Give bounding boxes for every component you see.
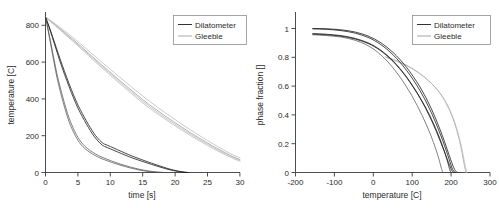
panel-cooling-curves: 0 200 400 600 800 0 5 10 15 20 25 30 [0,0,249,208]
right-ytick-1: 1 [285,25,290,34]
left-ytick-0: 0 [35,169,40,178]
dilatometer-phase-curve-1 [313,29,458,173]
right-y-ticks [292,29,296,173]
cooling-curves-plot: 0 200 400 600 800 0 5 10 15 20 25 30 [0,0,249,208]
right-ytick-0: 0 [285,169,290,178]
right-ytick-04: 0.4 [278,111,290,120]
right-ytick-06: 0.6 [278,82,290,91]
dilatometer-phase-curve-4 [313,34,451,173]
right-x-ticks [296,173,491,177]
left-legend[interactable]: Dilatometer Gleeble [174,16,247,45]
left-y-ticks [42,25,46,172]
left-ytick-400: 400 [26,95,40,104]
left-ytick-800: 800 [26,21,40,30]
dilatometer-phase-curve-2 [313,29,456,173]
dilatometer-fast-curve-1 [46,17,163,172]
right-xtick-m200: -200 [287,178,304,187]
gleeble-phase-curve-2 [387,58,467,172]
left-xtick-20: 20 [171,178,180,187]
right-xtick-300: 300 [483,178,497,187]
left-xtick-30: 30 [235,178,244,187]
right-x-axis-title: temperature [C] [362,190,421,200]
right-y-axis-title: phase fraction [] [255,65,265,125]
left-ytick-600: 600 [26,58,40,67]
dilatometer-curve-1 [46,17,187,172]
right-ytick-02: 0.2 [278,140,290,149]
right-xtick-m100: -100 [326,178,343,187]
left-y-axis-title: temperature [C] [6,65,16,124]
right-curves-group [313,29,467,173]
figure-container: 0 200 400 600 800 0 5 10 15 20 25 30 [0,0,499,208]
left-xtick-10: 10 [106,178,115,187]
right-xtick-0: 0 [371,178,376,187]
dilatometer-fast-curve-2 [46,17,169,172]
left-x-ticks [46,173,240,177]
gleeble-phase-curve-1 [385,57,466,173]
left-xtick-0: 0 [43,178,48,187]
left-xtick-5: 5 [76,178,81,187]
left-legend-label-dilatometer: Dilatometer [195,21,236,30]
right-ytick-08: 0.8 [278,53,290,62]
right-xtick-200: 200 [444,178,458,187]
left-xtick-15: 15 [138,178,147,187]
left-x-axis-title: time [s] [128,190,155,200]
right-xtick-100: 100 [406,178,420,187]
phase-fraction-plot: 0 0.2 0.4 0.6 0.8 1 -200 -100 0 100 200 … [249,0,499,208]
right-legend-label-dilatometer: Dilatometer [434,21,475,30]
right-legend-label-gleeble: Gleeble [434,32,462,41]
dilatometer-phase-curve-3 [313,34,454,172]
left-legend-label-gleeble: Gleeble [195,32,223,41]
left-ytick-200: 200 [26,132,40,141]
panel-phase-fraction: 0 0.2 0.4 0.6 0.8 1 -200 -100 0 100 200 … [249,0,499,208]
right-legend[interactable]: Dilatometer Gleeble [413,16,491,45]
left-xtick-25: 25 [203,178,212,187]
